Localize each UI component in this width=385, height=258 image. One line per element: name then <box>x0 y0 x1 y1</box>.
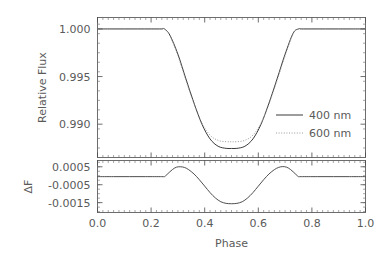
curve-delta-f <box>98 167 366 204</box>
upper-ylabel: Relative Flux <box>36 52 49 123</box>
lower-xtick-label: 0.2 <box>142 217 160 230</box>
transit-lightcurve-figure: 1.0000.9950.990Relative Flux400 nm600 nm… <box>0 0 385 258</box>
lower-ylabel: ΔF <box>22 180 35 194</box>
lower-xtick-label: 1.0 <box>357 217 375 230</box>
lower-ytick-label: -0.0005 <box>48 179 90 192</box>
lower-panel-frame <box>98 161 366 213</box>
upper-ytick-label: 1.000 <box>59 23 91 36</box>
lower-ytick-label: 0.0005 <box>52 161 91 174</box>
legend-label-2: 600 nm <box>309 127 351 140</box>
lower-xtick-label: 0.8 <box>303 217 321 230</box>
lower-xtick-label: 0.4 <box>196 217 214 230</box>
upper-ytick-label: 0.995 <box>59 71 91 84</box>
curve-600-nm <box>98 28 366 141</box>
lower-xtick-label: 0.6 <box>250 217 268 230</box>
lower-ytick-label: -0.0015 <box>48 197 90 210</box>
xlabel: Phase <box>215 237 248 250</box>
plot-canvas: 1.0000.9950.990Relative Flux400 nm600 nm… <box>0 0 385 258</box>
upper-ytick-label: 0.990 <box>59 118 91 131</box>
legend-label-1: 400 nm <box>309 109 351 122</box>
lower-xtick-label: 0.0 <box>89 217 107 230</box>
